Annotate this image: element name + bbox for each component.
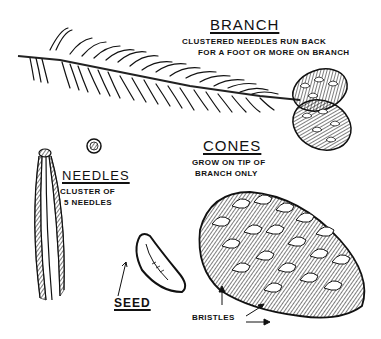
- cones-title: CONES: [203, 137, 261, 154]
- needles-caption-line1: CLUSTER OF: [60, 186, 115, 197]
- cones-caption-line1: GROW ON TIP OF: [192, 157, 265, 168]
- cones-caption-line2: BRANCH ONLY: [195, 168, 258, 179]
- branch-caption-line1: CLUSTERED NEEDLES RUN BACK: [182, 36, 326, 47]
- branch-cones-drawing: [285, 62, 360, 160]
- seed-drawing: [118, 234, 185, 296]
- large-cone-drawing: [199, 192, 364, 325]
- needles-caption-line2: 5 NEEDLES: [64, 197, 112, 208]
- bristles-label: BRISTLES: [192, 312, 235, 323]
- needle-cluster-drawing: [35, 149, 64, 300]
- needles-title: NEEDLES: [62, 168, 130, 183]
- seed-title: SEED: [114, 296, 151, 310]
- needle-cross-section-drawing: [87, 139, 101, 153]
- branch-title: BRANCH: [210, 16, 279, 33]
- branch-caption-line2: FOR A FOOT OR MORE ON BRANCH: [198, 47, 350, 58]
